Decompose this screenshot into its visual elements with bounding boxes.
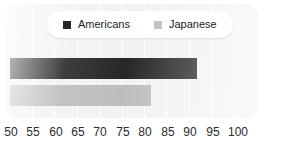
x-tick-label: 80 [138, 122, 151, 142]
x-tick-label: 50 [4, 122, 17, 142]
bar-chart: Americans Japanese 50 55 60 65 70 75 80 … [0, 0, 284, 148]
square-swatch-icon [154, 21, 162, 29]
x-tick-label: 90 [183, 122, 196, 142]
x-tick-label: 55 [26, 122, 39, 142]
square-swatch-icon [63, 21, 71, 29]
legend-item-americans: Americans [63, 19, 130, 30]
x-tick-label: 70 [93, 122, 106, 142]
x-axis: 50 55 60 65 70 75 80 85 90 95 100 [0, 122, 284, 142]
legend-label-japanese: Japanese [169, 19, 217, 30]
gridline-100 [234, 4, 235, 118]
bar-japanese [10, 85, 151, 106]
chart-legend: Americans Japanese [47, 11, 233, 38]
x-tick-label: 75 [116, 122, 129, 142]
x-tick-label: 65 [71, 122, 84, 142]
bar-americans [10, 58, 197, 79]
x-tick-label: 95 [206, 122, 219, 142]
x-tick-label: 60 [49, 122, 62, 142]
x-tick-label: 100 [228, 122, 248, 142]
legend-item-japanese: Japanese [154, 19, 217, 30]
x-tick-label: 85 [161, 122, 174, 142]
legend-label-americans: Americans [78, 19, 130, 30]
